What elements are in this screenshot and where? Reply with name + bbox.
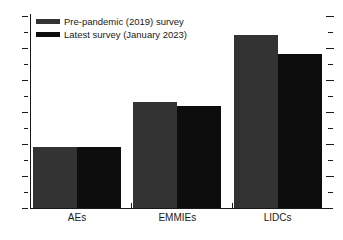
- y-tick-mark: [22, 208, 28, 209]
- y-axis-line: [30, 14, 31, 209]
- x-axis-category-label: EMMIEs: [121, 211, 233, 225]
- y-tick-mark: [24, 64, 28, 65]
- y-tick-mark: [328, 96, 333, 97]
- y-tick-mark: [328, 192, 333, 193]
- y-tick-mark: [24, 192, 28, 193]
- y-tick-mark: [328, 128, 333, 129]
- x-axis-line: [30, 208, 333, 209]
- x-axis-category-label: AEs: [21, 211, 133, 225]
- bar: [234, 35, 278, 208]
- legend-item: Pre-pandemic (2019) survey: [36, 15, 187, 27]
- y-tick-mark: [22, 16, 28, 17]
- y-tick-mark: [22, 176, 28, 177]
- bar: [33, 147, 77, 208]
- y-tick-mark: [22, 80, 28, 81]
- y-tick-mark: [22, 48, 28, 49]
- legend-item: Latest survey (January 2023): [36, 28, 187, 40]
- bar: [177, 106, 221, 208]
- legend-label: Latest survey (January 2023): [64, 29, 187, 40]
- legend-swatch: [36, 32, 60, 37]
- bar: [133, 102, 177, 208]
- y-tick-mark: [326, 80, 334, 81]
- y-tick-mark: [24, 128, 28, 129]
- y-tick-mark: [24, 160, 28, 161]
- bar: [278, 54, 322, 208]
- y-tick-mark: [326, 176, 334, 177]
- y-tick-mark: [328, 160, 333, 161]
- x-axis-separator-tick: [232, 203, 233, 209]
- y-tick-mark: [22, 144, 28, 145]
- x-axis-separator-tick: [131, 203, 132, 209]
- y-tick-mark: [328, 32, 333, 33]
- bar: [77, 147, 121, 208]
- y-tick-mark: [22, 112, 28, 113]
- legend-label: Pre-pandemic (2019) survey: [64, 16, 184, 27]
- y-tick-mark: [326, 48, 334, 49]
- y-tick-mark: [326, 112, 334, 113]
- y-tick-mark: [328, 64, 333, 65]
- y-tick-mark: [326, 16, 334, 17]
- y-tick-mark: [24, 96, 28, 97]
- x-axis-category-label: LIDCs: [222, 211, 334, 225]
- legend-swatch: [36, 19, 60, 24]
- y-tick-mark: [326, 144, 334, 145]
- y-tick-mark: [24, 32, 28, 33]
- bar-chart: 0123456 AEsEMMIEsLIDCs Pre-pandemic (201…: [0, 0, 343, 240]
- chart-legend: Pre-pandemic (2019) surveyLatest survey …: [36, 15, 187, 41]
